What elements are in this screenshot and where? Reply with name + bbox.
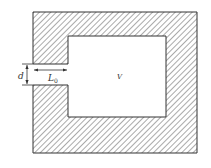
resonator-diagram: d L0 V [0, 0, 211, 168]
label-d: d [18, 71, 24, 81]
hatched-wall [0, 0, 211, 168]
